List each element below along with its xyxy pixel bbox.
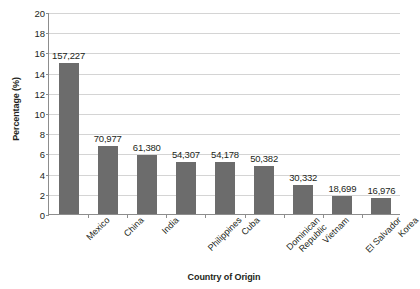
bar-group[interactable]: 50,382 [245, 13, 284, 214]
bar-value-label: 61,380 [133, 142, 161, 153]
bar[interactable] [332, 196, 352, 214]
bar-value-label: 157,227 [52, 50, 85, 61]
x-axis-category-label: Mexico [85, 215, 112, 242]
y-axis-tick-label: 12 [34, 88, 45, 99]
x-axis-title: Country of Origin [48, 272, 400, 282]
bar-group[interactable]: 70,977 [88, 13, 127, 214]
bar-value-label: 54,178 [211, 149, 239, 160]
bar[interactable] [215, 162, 235, 214]
bar-group[interactable]: 54,307 [166, 13, 205, 214]
bar[interactable] [254, 166, 274, 214]
x-axis-category-label: Philippines [206, 215, 244, 253]
y-axis-tick-label: 18 [34, 28, 45, 39]
bar-value-label: 30,332 [289, 172, 317, 183]
bar[interactable] [59, 63, 79, 214]
bar-group[interactable]: 54,178 [205, 13, 244, 214]
bar-value-label: 18,699 [328, 183, 356, 194]
bars-layer: 157,22770,97761,38054,30754,17850,38230,… [49, 13, 400, 214]
bar[interactable] [137, 155, 157, 214]
y-axis-tick-label: 16 [34, 48, 45, 59]
bar[interactable] [98, 146, 118, 214]
x-axis-category-label: Cuba [239, 215, 261, 237]
bar-group[interactable]: 18,699 [323, 13, 362, 214]
x-axis-category-label: India [160, 215, 181, 236]
y-axis-title: Percentage (%) [11, 39, 21, 179]
y-axis-tick-label: 14 [34, 68, 45, 79]
x-axis-category-labels: MexicoChinaIndiaPhilippinesCubaDominican… [48, 215, 400, 271]
y-axis-tick-label: 8 [40, 129, 45, 140]
bar-group[interactable]: 157,227 [49, 13, 88, 214]
y-axis-tick-label: 2 [40, 189, 45, 200]
bar-value-label: 54,307 [172, 149, 200, 160]
y-axis-tick-label: 10 [34, 109, 45, 120]
plot-area: 20181614121086420 157,22770,97761,38054,… [48, 13, 400, 215]
bar-value-label: 70,977 [94, 133, 122, 144]
bar-group[interactable]: 30,332 [284, 13, 323, 214]
y-axis-tick-label: 6 [40, 149, 45, 160]
bar-group[interactable]: 16,976 [362, 13, 401, 214]
y-axis-tick-label: 4 [40, 169, 45, 180]
y-axis-tick-label: 20 [34, 8, 45, 19]
bar-value-label: 50,382 [250, 153, 278, 164]
y-axis-tick-label: 0 [40, 210, 45, 221]
bar-group[interactable]: 61,380 [127, 13, 166, 214]
bar[interactable] [371, 198, 391, 214]
bar[interactable] [293, 185, 313, 214]
x-axis-category-label: El Salvador [363, 215, 403, 255]
x-axis-category-label: China [122, 215, 146, 239]
bar[interactable] [176, 162, 196, 214]
bar-value-label: 16,976 [367, 185, 395, 196]
